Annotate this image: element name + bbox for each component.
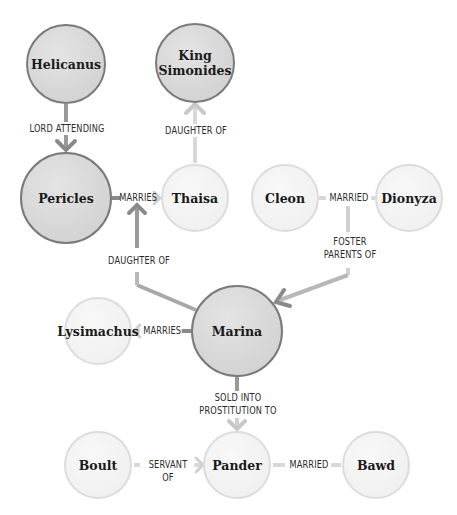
node-marina[interactable]: Marina (191, 285, 283, 377)
node-label: Boult (79, 458, 118, 473)
node-dionyza[interactable]: Dionyza (375, 164, 443, 232)
node-bawd[interactable]: Bawd (342, 431, 410, 499)
edge-label-lord-attending: LORD ATTENDING (25, 122, 109, 135)
node-thaisa[interactable]: Thaisa (161, 164, 229, 232)
node-cleon[interactable]: Cleon (251, 164, 319, 232)
node-label: Thaisa (172, 191, 218, 206)
edge-label-pericles-marries: MARRIES (118, 191, 157, 204)
node-boult[interactable]: Boult (64, 431, 132, 499)
edge-label-thaisa-daughter-of: DAUGHTER OF (158, 124, 233, 137)
node-pericles[interactable]: Pericles (20, 152, 112, 244)
edge-label-marina-marries: MARRIES (142, 324, 181, 337)
edge-label-servant-of: SERVANT OF (142, 458, 194, 484)
node-label: Pericles (38, 191, 94, 206)
node-helicanus[interactable]: Helicanus (26, 24, 106, 104)
node-label: Pander (212, 458, 262, 473)
node-label: Dionyza (381, 191, 436, 206)
node-label: Bawd (357, 458, 395, 473)
node-label: Marina (212, 324, 262, 339)
node-label: Cleon (265, 191, 305, 206)
edge-label-sold-into-prostitution: SOLD INTO PROSTITUTION TO (196, 391, 280, 417)
node-label: Lysimachus (57, 324, 139, 339)
node-label: King Simonides (159, 48, 232, 78)
edge-label-foster-parents: FOSTER PARENTS OF (320, 235, 379, 261)
relationship-diagram: Helicanus King Simonides Pericles Thaisa… (0, 0, 457, 515)
edge-label-pander-married: MARRIED (287, 458, 331, 471)
node-lysimachus[interactable]: Lysimachus (64, 297, 132, 365)
edge-label-marina-daughter-of: DAUGHTER OF (104, 254, 175, 267)
edge-label-cleon-married: MARRIED (327, 191, 371, 204)
node-label: Helicanus (31, 57, 101, 72)
node-king-simonides[interactable]: King Simonides (155, 23, 235, 103)
node-pander[interactable]: Pander (203, 431, 271, 499)
